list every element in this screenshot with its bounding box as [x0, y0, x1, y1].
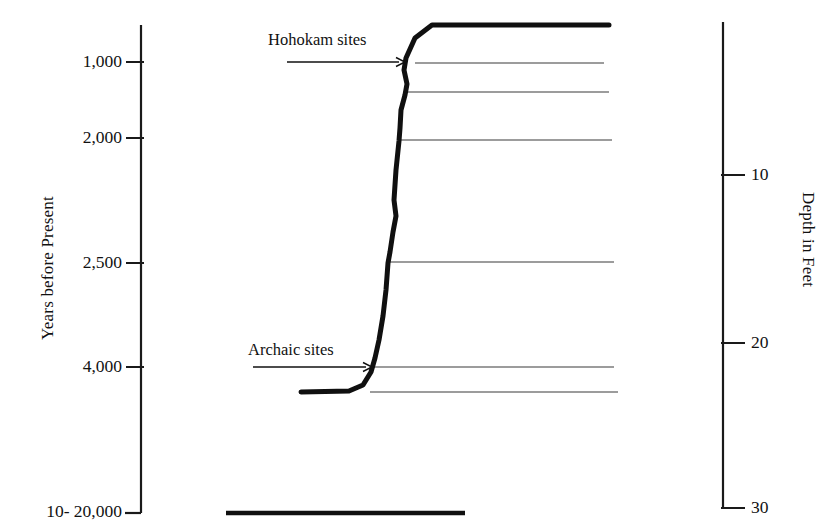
age-depth-curve — [301, 25, 609, 392]
left-tick-label-1000: 1,000 — [10, 51, 122, 72]
right-axis — [721, 22, 745, 509]
right-tick-label-20: 20 — [751, 332, 769, 353]
chart-figure: Years before Present Depth in Feet 1,000… — [0, 0, 840, 532]
stratigraphic-horizon-lines — [370, 63, 618, 392]
annotation-label-2: Archaic sites — [248, 340, 334, 360]
right-tick-label-10: 10 — [751, 164, 769, 185]
right-tick-label-30: 30 — [751, 497, 769, 518]
left-tick-label-2500: 2,500 — [10, 252, 122, 273]
age-depth-curve-line — [301, 25, 609, 392]
left-tick-label-20000: 10- 20,000 — [10, 501, 122, 522]
left-tick-label-4000: 4,000 — [10, 356, 122, 377]
right-axis-title: Depth in Feet — [798, 192, 818, 287]
annotation-label-1: Hohokam sites — [268, 30, 367, 50]
left-axis — [125, 25, 144, 513]
left-tick-label-2000: 2,000 — [10, 127, 122, 148]
chart-plot-area — [0, 0, 840, 532]
